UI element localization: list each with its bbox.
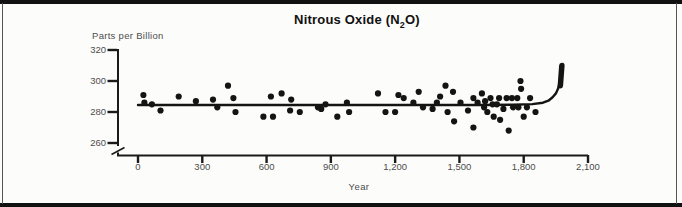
data-point [524,104,530,110]
data-point [437,93,443,99]
data-point [344,100,350,106]
data-point [375,90,381,96]
data-point [434,100,440,106]
y-tick-label: 280 [64,106,106,117]
data-point [287,107,293,113]
data-point [500,106,506,112]
data-point [225,83,231,89]
x-axis-title: Year [36,181,682,192]
data-point [193,98,199,104]
data-point [510,104,516,110]
data-point [451,118,457,124]
trend-end-marker [560,66,562,86]
data-point [457,100,463,106]
x-tick-label: 1,800 [498,161,550,172]
data-point [214,104,220,110]
data-point [430,106,436,112]
data-point [410,100,416,106]
data-point [527,95,533,101]
data-point [297,109,303,115]
y-tick-label: 300 [64,75,106,86]
data-point [157,107,163,113]
data-point [392,109,398,115]
data-point [494,101,500,107]
data-point [509,95,515,101]
data-point [497,117,503,123]
data-point [504,95,510,101]
data-point [416,89,422,95]
x-tick-label: 0 [112,161,164,172]
data-point [149,101,155,107]
data-point [268,93,274,99]
y-tick-label: 320 [64,44,106,55]
y-tick-label: 260 [64,137,106,148]
data-point [465,107,471,113]
data-point [445,109,451,115]
data-point [140,92,146,98]
x-tick-label: 300 [176,161,228,172]
data-point [442,83,448,89]
data-point [401,95,407,101]
data-point [141,100,147,106]
data-point [288,97,294,103]
figure-frame: Nitrous Oxide (N2O) Parts per Billion 32… [0,0,682,207]
data-point [210,97,216,103]
data-point [517,78,523,84]
data-point [479,90,485,96]
data-point [506,128,512,134]
data-point [346,109,352,115]
data-point [484,109,490,115]
x-tick-label: 1,200 [369,161,421,172]
data-point [496,95,502,101]
data-point [475,100,481,106]
scatter-plot-canvas [0,0,682,207]
x-tick-label: 2,100 [562,161,614,172]
data-point [395,92,401,98]
data-point [270,114,276,120]
data-point [491,114,497,120]
data-point [260,114,266,120]
data-point [334,114,340,120]
data-point [487,95,493,101]
data-point [518,86,524,92]
data-point [470,124,476,130]
data-point [482,98,488,104]
data-point [515,104,521,110]
x-tick-label: 900 [305,161,357,172]
data-point [232,109,238,115]
data-point [521,114,527,120]
data-point [514,95,520,101]
x-tick-label: 600 [241,161,293,172]
data-point [230,95,236,101]
x-tick-label: 1,500 [433,161,485,172]
data-point [176,93,182,99]
data-point [382,109,388,115]
data-point [322,101,328,107]
data-point [450,89,456,95]
data-point [470,95,476,101]
data-point [279,90,285,96]
data-point [318,106,324,112]
data-point [532,109,538,115]
data-point [420,104,426,110]
